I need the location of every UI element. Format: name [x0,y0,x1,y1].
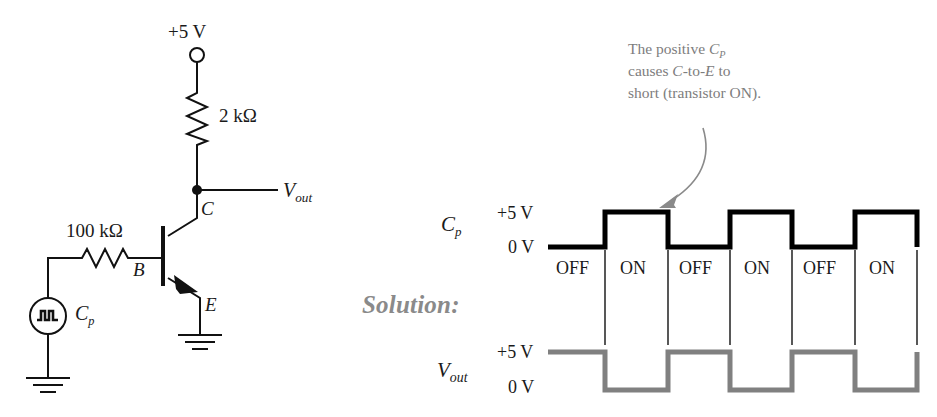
cp-high-level-label: +5 V [497,204,533,222]
vout-terminal-label-main: V [283,179,295,201]
wire-source-to-rb [48,258,77,298]
annotation-line-2-mid: -to- [683,62,705,79]
vout-waveform [548,352,917,390]
annotation-line-1-var-sub: P [719,49,725,60]
supply-terminal-icon [190,48,204,62]
cp-signal-name-main: C [441,212,455,236]
vout-low-level-label: 0 V [508,378,534,396]
pulse-source-label-sub: p [88,314,94,328]
figure-canvas: +5 V 2 kΩ 100 kΩ Vout C B E Cp The posit… [0,0,937,417]
ground-emitter-icon [178,335,222,349]
vout-high-level-label: +5 V [497,343,533,361]
base-resistor-icon [77,249,130,267]
state-label-5: ON [869,259,895,277]
annotation-line-2-text: causes [628,62,672,79]
pulse-waveform-icon [37,311,58,320]
vout-signal-name-sub: out [450,370,468,385]
annotation-line-1-text: The positive [628,40,709,57]
vout-terminal-label: Vout [283,180,312,204]
wire-collector-lead [168,190,197,236]
cp-low-level-label: 0 V [508,238,534,256]
cp-signal-name: Cp [441,214,462,238]
ground-source-icon [26,378,70,392]
annotation-line-3: short (transistor ON). [628,82,761,103]
state-label-0: OFF [556,259,589,277]
vout-signal-name-main: V [437,358,450,382]
base-terminal-label: B [133,260,145,279]
annotation-line-2-vare: E [705,62,714,79]
annotation-line-1-var: C [709,40,719,57]
annotation-line-2-varc: C [672,62,682,79]
emitter-terminal-label: E [205,295,217,314]
annotation-arrow-icon [659,128,706,208]
cp-signal-name-sub: p [455,224,462,239]
state-label-3: ON [744,259,770,277]
annotation-line-2: causes C-to-E to [628,60,730,81]
annotation-line-2-tail: to [715,62,731,79]
base-resistor-label: 100 kΩ [66,221,123,240]
state-label-4: OFF [803,259,836,277]
state-label-2: OFF [679,259,712,277]
vout-signal-name: Vout [437,360,468,385]
state-label-1: ON [620,259,646,277]
supply-voltage-label: +5 V [168,22,206,41]
schematic-drawing [0,0,937,417]
collector-resistor-label: 2 kΩ [219,106,257,125]
collector-resistor-icon [187,88,207,190]
emitter-arrow-icon [174,275,198,294]
vout-terminal-label-sub: out [295,190,312,205]
pulse-source-label: Cp [75,303,95,327]
solution-label: Solution: [362,292,460,317]
collector-terminal-label: C [201,199,214,218]
pulse-source-label-main: C [75,302,88,324]
cp-waveform [548,212,917,247]
